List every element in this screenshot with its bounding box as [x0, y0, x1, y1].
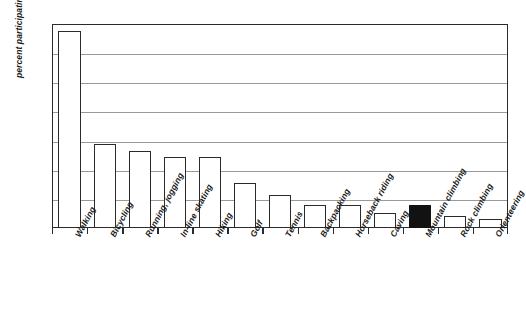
x-axis-labels: WalkingBicyclingRunning, joggingIn-line … [52, 234, 508, 324]
bar-running-jogging [129, 151, 151, 228]
bar-walking [58, 31, 80, 228]
bar-bicycling [94, 144, 116, 228]
bar-golf [234, 183, 256, 228]
y-axis-ticks: 0%10%20%30%40%50%60%70% [0, 24, 52, 228]
bar-series [52, 24, 508, 228]
bar-chart: percent participating 0%10%20%30%40%50%6… [0, 0, 526, 325]
